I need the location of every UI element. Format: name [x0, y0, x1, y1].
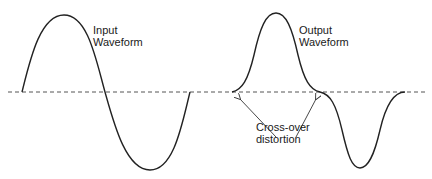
input-label-line2: Waveform: [93, 36, 143, 48]
distortion-label-line2: distortion: [256, 133, 310, 145]
input-waveform-label: Input Waveform: [93, 24, 143, 48]
crossover-distortion-diagram: Input Waveform Output Waveform Cross-ove…: [0, 0, 432, 179]
crossover-distortion-label: Cross-over distortion: [256, 121, 310, 145]
input-label-line1: Input: [93, 24, 143, 36]
distortion-label-line1: Cross-over: [256, 121, 310, 133]
waveform-canvas: [0, 0, 432, 179]
output-label-line1: Output: [299, 24, 349, 36]
output-label-line2: Waveform: [299, 36, 349, 48]
output-waveform-label: Output Waveform: [299, 24, 349, 48]
